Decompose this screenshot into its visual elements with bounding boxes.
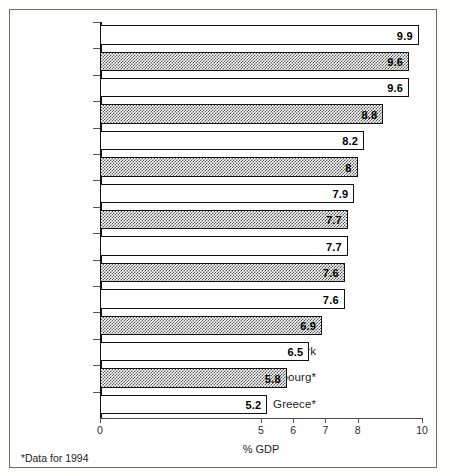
chart-figure: France9.9Austria9.6Germany9.6Netherlands… bbox=[0, 0, 450, 476]
x-axis-tick-label: 5 bbox=[244, 424, 278, 436]
bar[interactable] bbox=[100, 25, 419, 45]
bar[interactable] bbox=[100, 104, 383, 124]
x-axis-tick-label: 6 bbox=[276, 424, 310, 436]
bar-row: Germany9.6 bbox=[100, 75, 422, 101]
bar-value-label: 8.2 bbox=[326, 135, 358, 147]
y-axis-tick bbox=[93, 233, 100, 234]
bar-row: Luxembourg*5.8 bbox=[100, 365, 422, 391]
y-axis-tick bbox=[93, 48, 100, 49]
bar-value-label: 5.8 bbox=[249, 373, 281, 385]
bar-value-label: 7.6 bbox=[307, 267, 339, 279]
y-axis-tick bbox=[93, 75, 100, 76]
x-axis-title: % GDP bbox=[100, 443, 422, 455]
x-axis-tick bbox=[293, 418, 294, 423]
bar-row: Belgium8 bbox=[100, 154, 422, 180]
y-axis-tick bbox=[93, 22, 100, 23]
y-axis-tick bbox=[93, 392, 100, 393]
bar-value-label: 7.6 bbox=[307, 294, 339, 306]
y-axis-tick bbox=[93, 154, 100, 155]
bar[interactable] bbox=[100, 131, 364, 151]
y-axis-tick bbox=[93, 260, 100, 261]
bar-value-label: 8 bbox=[320, 162, 352, 174]
x-axis-tick bbox=[358, 418, 359, 423]
x-axis-tick-label: 0 bbox=[83, 424, 117, 436]
bar-value-label: 6.9 bbox=[284, 320, 316, 332]
y-axis-tick bbox=[93, 207, 100, 208]
footnote-text: Data for 1994 bbox=[25, 452, 89, 464]
x-axis-tick bbox=[422, 418, 423, 423]
bar[interactable] bbox=[100, 52, 409, 72]
bar-value-label: 9.6 bbox=[371, 56, 403, 68]
bar-row: Sweden7.7 bbox=[100, 207, 422, 233]
bar-value-label: 8.8 bbox=[345, 109, 377, 121]
x-axis-tick bbox=[261, 418, 262, 423]
y-axis-tick bbox=[93, 312, 100, 313]
chart-footnote: *Data for 1994 bbox=[21, 452, 89, 464]
bar[interactable] bbox=[100, 78, 409, 98]
bar-value-label: 7.7 bbox=[310, 241, 342, 253]
bar-value-label: 7.9 bbox=[316, 188, 348, 200]
bar-value-label: 5.2 bbox=[229, 399, 261, 411]
bar-row: Greece*5.2 bbox=[100, 392, 422, 418]
bar-row: Spain7.6 bbox=[100, 286, 422, 312]
bar-value-label: 7.7 bbox=[310, 214, 342, 226]
bar-row: Austria9.6 bbox=[100, 48, 422, 74]
x-axis-tick-label: 7 bbox=[308, 424, 342, 436]
bar-row: France9.9 bbox=[100, 22, 422, 48]
bar-value-label: 9.9 bbox=[381, 30, 413, 42]
x-axis-tick bbox=[100, 418, 101, 423]
y-axis-tick bbox=[93, 365, 100, 366]
y-axis-tick bbox=[93, 339, 100, 340]
plot-area: France9.9Austria9.6Germany9.6Netherlands… bbox=[100, 22, 422, 418]
x-axis-tick bbox=[325, 418, 326, 423]
bar-row: Denmark6.5 bbox=[100, 339, 422, 365]
x-axis-tick-label: 8 bbox=[341, 424, 375, 436]
y-axis-tick bbox=[93, 286, 100, 287]
bar-value-label: 6.5 bbox=[271, 346, 303, 358]
x-axis-tick-label: 10 bbox=[405, 424, 439, 436]
y-axis-tick bbox=[93, 101, 100, 102]
y-axis-tick bbox=[93, 128, 100, 129]
bar-value-label: 9.6 bbox=[371, 82, 403, 94]
bar-row: Netherlands8.8 bbox=[100, 101, 422, 127]
bar-row: Portugal*7.6 bbox=[100, 260, 422, 286]
y-axis-tick bbox=[93, 180, 100, 181]
bar-row: Finland8.2 bbox=[100, 128, 422, 154]
bar-row: UK6.9 bbox=[100, 312, 422, 338]
bar-row: Italy7.7 bbox=[100, 233, 422, 259]
bar-row: Ireland*7.9 bbox=[100, 180, 422, 206]
